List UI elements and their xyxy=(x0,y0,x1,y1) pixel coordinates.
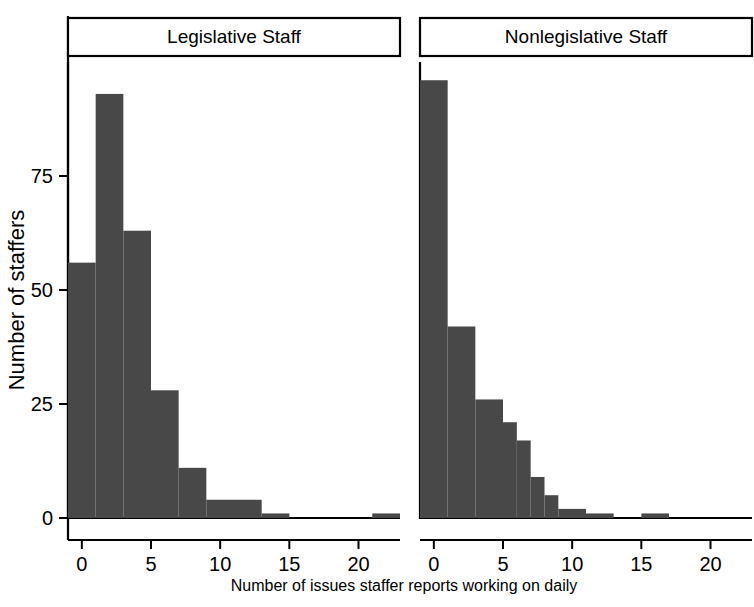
y-tick-label: 25 xyxy=(31,393,53,415)
histogram-bar xyxy=(545,495,559,518)
histogram-bar xyxy=(372,513,400,518)
panel-legislative: Legislative Staff05101520 xyxy=(68,18,400,575)
y-axis-title: Number of staffers xyxy=(4,210,29,391)
x-tick-label: 5 xyxy=(145,553,156,575)
histogram-bar xyxy=(503,422,517,518)
y-tick-label: 50 xyxy=(31,279,53,301)
histogram-bar xyxy=(420,80,448,518)
y-tick-label: 75 xyxy=(31,165,53,187)
histogram-bar xyxy=(151,390,179,518)
histogram-bar xyxy=(517,440,531,518)
panel-strip-label-nonlegislative: Nonlegislative Staff xyxy=(505,26,668,47)
y-tick-label: 0 xyxy=(42,507,53,529)
x-tick-label: 20 xyxy=(699,553,721,575)
panels: Legislative Staff05101520Nonlegislative … xyxy=(68,18,752,575)
x-tick-label: 15 xyxy=(278,553,300,575)
chart-canvas: Number of staffers 0255075 Legislative S… xyxy=(0,0,754,607)
panel-nonlegislative: Nonlegislative Staff05101520 xyxy=(420,18,752,575)
histogram-bar xyxy=(586,513,614,518)
histogram-bar xyxy=(123,231,151,518)
histogram-bar xyxy=(96,94,124,518)
histogram-bar xyxy=(68,263,96,518)
histogram-bar xyxy=(262,513,290,518)
y-axis-title-text: Number of staffers xyxy=(4,210,29,391)
x-tick-label: 20 xyxy=(347,553,369,575)
y-axis: 0255075 xyxy=(31,16,68,540)
histogram-bar xyxy=(206,500,261,518)
histogram-bar xyxy=(179,468,207,518)
x-tick-label: 0 xyxy=(428,553,439,575)
x-tick-label: 10 xyxy=(561,553,583,575)
x-tick-label: 15 xyxy=(630,553,652,575)
x-tick-label: 5 xyxy=(497,553,508,575)
x-tick-label: 10 xyxy=(209,553,231,575)
histogram-bar xyxy=(475,399,503,518)
histogram-bar xyxy=(448,326,476,518)
x-axis-title-text: Number of issues staffer reports working… xyxy=(231,577,578,594)
histogram-bar xyxy=(641,513,669,518)
histogram-figure: Number of staffers 0255075 Legislative S… xyxy=(0,0,754,607)
histogram-bar xyxy=(558,509,586,518)
panel-strip-label-legislative: Legislative Staff xyxy=(167,26,302,47)
x-tick-label: 0 xyxy=(76,553,87,575)
histogram-bar xyxy=(531,477,545,518)
